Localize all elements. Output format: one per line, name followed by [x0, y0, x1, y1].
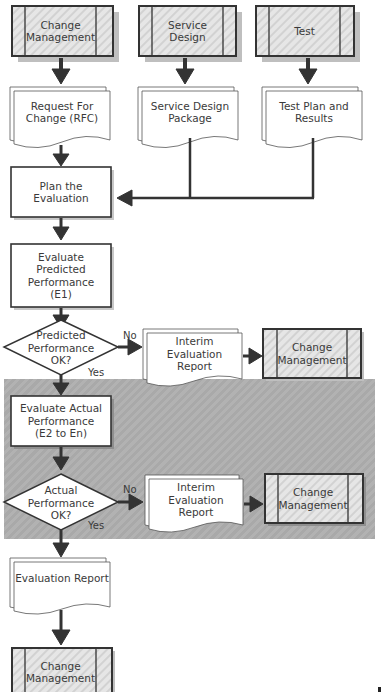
predefined-process-service-design	[139, 6, 242, 62]
flowchart-shapes	[0, 0, 381, 692]
arrow-right-icon	[118, 494, 143, 510]
arrow-down-icon	[53, 375, 69, 395]
document-sdp-shape	[138, 87, 238, 148]
process-evaluate-predicted-shape	[11, 244, 114, 310]
label-yes-predicted: Yes	[88, 367, 104, 378]
document-interim-report-1-shape	[143, 329, 242, 386]
arrow-down-icon	[53, 447, 69, 470]
predefined-process-change-management-2	[265, 474, 366, 526]
process-evaluate-actual-shape	[11, 396, 114, 449]
document-interim-report-2-shape	[145, 475, 243, 532]
arrow-down-icon	[53, 218, 69, 240]
label-no-predicted: No	[123, 330, 137, 341]
arrow-down-icon	[52, 610, 70, 645]
predefined-process-change-management-final	[12, 648, 115, 692]
predefined-process-change-management-1	[263, 329, 364, 381]
label-yes-actual: Yes	[88, 520, 104, 531]
arrow-right-icon	[244, 496, 263, 512]
predefined-process-test	[256, 6, 360, 62]
document-rfc-shape	[10, 87, 110, 148]
evaluation-flowchart: Change Management Service Design Test Re…	[0, 0, 381, 692]
arrow-down-icon	[53, 530, 69, 557]
arrow-right-icon	[118, 339, 142, 355]
label-no-actual: No	[123, 484, 137, 495]
arrow-right-icon	[243, 348, 262, 364]
process-plan-evaluation-shape	[11, 167, 114, 220]
document-evaluation-report-shape	[10, 558, 110, 614]
predefined-process-change-management-top	[12, 6, 119, 62]
